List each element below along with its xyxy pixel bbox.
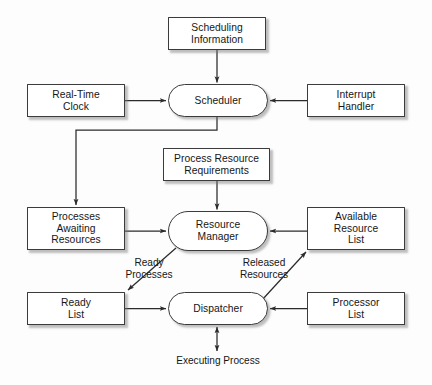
node-ready-list-label: ReadyList [58,297,94,320]
edge-label-executing-process: Executing Process [148,355,288,367]
node-available-resource-list-label: AvailableResourceList [331,211,381,246]
node-dispatcher-label: Dispatcher [190,303,246,315]
node-interrupt-handler-label: InterruptHandler [334,89,379,112]
node-resource-manager-label: ResourceManager [193,219,243,242]
node-real-time-clock-label: Real-TimeClock [49,89,103,112]
node-scheduling-information[interactable]: SchedulingInformation [168,17,266,50]
node-real-time-clock[interactable]: Real-TimeClock [27,84,125,117]
node-process-resource-requirements[interactable]: Process ResourceRequirements [163,148,270,181]
diagram-connectors-layer [0,0,432,385]
node-interrupt-handler[interactable]: InterruptHandler [307,84,405,117]
node-processor-list-label: ProcessorList [330,297,383,320]
node-available-resource-list[interactable]: AvailableResourceList [307,207,405,250]
node-scheduler-label: Scheduler [192,95,245,107]
node-processes-awaiting-resources-label: ProcessesAwaitingResources [48,211,104,246]
node-resource-manager[interactable]: ResourceManager [168,211,268,251]
node-dispatcher[interactable]: Dispatcher [168,292,268,325]
node-scheduler[interactable]: Scheduler [168,84,268,117]
diagram-canvas: SchedulingInformation Real-TimeClock Sch… [0,0,432,385]
node-ready-list[interactable]: ReadyList [27,292,125,325]
node-process-resource-requirements-label: Process ResourceRequirements [171,153,262,176]
edge-label-ready-processes: ReadyProcesses [113,257,185,280]
node-scheduling-information-label: SchedulingInformation [188,22,246,45]
node-processor-list[interactable]: ProcessorList [307,292,405,325]
edge-label-released-resources: ReleasedResources [228,257,300,280]
node-processes-awaiting-resources[interactable]: ProcessesAwaitingResources [27,207,125,250]
